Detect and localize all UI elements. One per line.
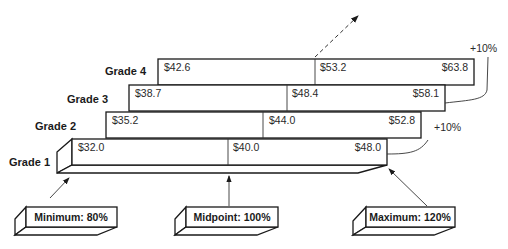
grade-3-midpoint: $48.4: [292, 87, 318, 99]
grade-3-bar: Grade 3 $38.7 $48.4 $58.1: [67, 85, 445, 111]
grade-4-midpoint: $53.2: [320, 61, 346, 73]
grade-1-maximum: $48.0: [355, 141, 381, 153]
grade-3-maximum: $58.1: [413, 87, 439, 99]
grade-2-bar: Grade 2 $35.2 $44.0 $52.8: [35, 112, 421, 138]
maximum-callout: Maximum: 120%: [353, 207, 455, 235]
midpoint-callout-label: Midpoint: 100%: [193, 211, 271, 223]
grade-4-maximum: $63.8: [442, 61, 468, 73]
grade-1-minimum: $32.0: [78, 141, 104, 153]
minimum-callout: Minimum: 80%: [15, 207, 117, 235]
salary-grade-diagram: Grade 4 $42.6 $53.2 $63.8 Grade 3 $38.7 …: [0, 0, 508, 249]
continuation-arrow-icon: [315, 16, 358, 57]
minimum-pointer-arrow-icon: [50, 178, 69, 198]
maximum-pointer-arrow-icon: [389, 169, 427, 206]
grade-3-label: Grade 3: [67, 93, 108, 105]
grade-4-minimum: $42.6: [164, 61, 190, 73]
grade-2-maximum: $52.8: [389, 114, 415, 126]
increment-lower-label: +10%: [434, 121, 461, 133]
grade-4-bar: Grade 4 $42.6 $53.2 $63.8: [105, 59, 474, 85]
minimum-callout-label: Minimum: 80%: [34, 211, 108, 223]
maximum-callout-label: Maximum: 120%: [369, 211, 451, 223]
midpoint-callout: Midpoint: 100%: [175, 207, 278, 235]
grade-3-minimum: $38.7: [135, 87, 161, 99]
grade-1-midpoint: $40.0: [233, 141, 259, 153]
grade-1-bar: Grade 1 $32.0 $40.0 $48.0: [9, 139, 387, 173]
increment-upper-label: +10%: [470, 42, 497, 54]
grade-4-label: Grade 4: [105, 65, 147, 77]
grade-2-minimum: $35.2: [112, 114, 138, 126]
grade-1-label: Grade 1: [9, 156, 50, 168]
grade-2-label: Grade 2: [35, 120, 76, 132]
grade-2-midpoint: $44.0: [269, 114, 295, 126]
